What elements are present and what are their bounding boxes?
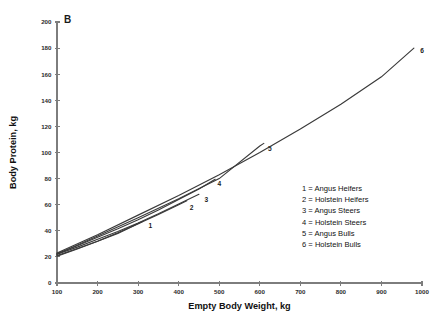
x-tick-label: 500 xyxy=(214,288,225,295)
series-line-5 xyxy=(57,143,264,254)
series-label-4: 4 xyxy=(217,180,221,187)
y-tick-label: 20 xyxy=(45,253,52,260)
x-axis-title: Empty Body Weight, kg xyxy=(188,301,290,311)
y-tick-label: 160 xyxy=(41,71,52,78)
x-tick-label: 1000 xyxy=(415,288,429,295)
x-tick-label: 200 xyxy=(92,288,103,295)
legend-entry-2: 2 = Holstein Heifers xyxy=(302,195,369,204)
x-tick-label: 800 xyxy=(336,288,347,295)
y-tick-label: 200 xyxy=(41,18,52,25)
x-tick-label: 300 xyxy=(133,288,144,295)
x-tick-label: 100 xyxy=(52,288,63,295)
y-tick-label: 60 xyxy=(45,201,52,208)
legend-entry-6: 6 = Holstein Bulls xyxy=(302,240,361,249)
y-tick-label: 0 xyxy=(48,279,52,286)
y-tick-label: 120 xyxy=(41,123,52,130)
series-label-2: 2 xyxy=(190,204,194,211)
y-tick-label: 140 xyxy=(41,97,52,104)
x-tick-label: 600 xyxy=(255,288,266,295)
x-tick-label: 900 xyxy=(376,288,387,295)
panel-label: B xyxy=(64,14,71,25)
legend-entry-3: 3 = Angus Steers xyxy=(302,206,360,215)
series-label-6: 6 xyxy=(420,47,424,54)
y-tick-label: 80 xyxy=(45,175,52,182)
legend-entry-1: 1 = Angus Heifers xyxy=(302,184,362,193)
legend-entry-5: 5 = Angus Bulls xyxy=(302,229,355,238)
series-label-1: 1 xyxy=(148,222,152,229)
x-tick-label: 400 xyxy=(174,288,185,295)
x-tick-label: 700 xyxy=(295,288,306,295)
chart-plot-area: 0204060801001201401601802001002003004005… xyxy=(0,0,440,326)
legend-entry-4: 4 = Holstein Steers xyxy=(302,218,367,227)
y-tick-label: 40 xyxy=(45,227,52,234)
y-tick-label: 180 xyxy=(41,44,52,51)
y-tick-label: 100 xyxy=(41,149,52,156)
chart-figure: 0204060801001201401601802001002003004005… xyxy=(0,0,440,326)
y-axis-title: Body Protein, kg xyxy=(8,116,18,189)
series-label-3: 3 xyxy=(204,196,208,203)
